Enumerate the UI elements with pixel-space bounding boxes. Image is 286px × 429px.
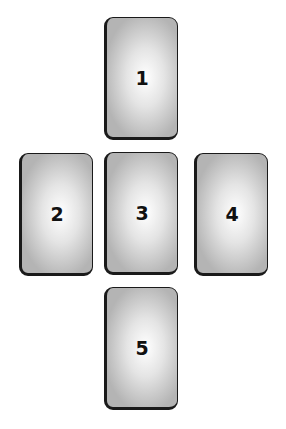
card-3-number: 3 xyxy=(135,202,148,224)
card-4: 4 xyxy=(194,153,268,276)
card-3: 3 xyxy=(104,152,178,275)
card-2: 2 xyxy=(19,153,93,276)
card-5: 5 xyxy=(104,287,178,410)
card-1-number: 1 xyxy=(135,67,148,89)
card-4-number: 4 xyxy=(225,203,238,225)
card-1: 1 xyxy=(104,17,178,140)
card-5-number: 5 xyxy=(135,337,148,359)
card-2-number: 2 xyxy=(50,203,63,225)
